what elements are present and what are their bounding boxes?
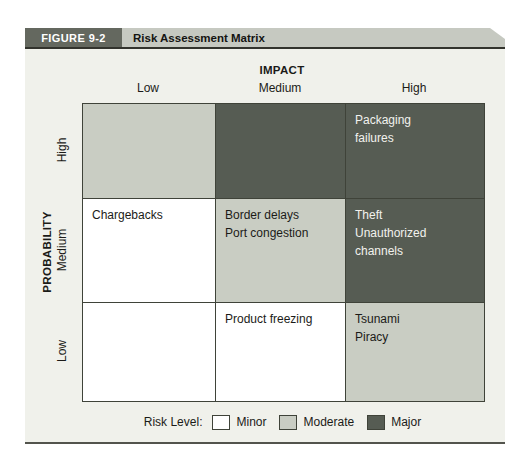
legend-entry-minor: Minor [212, 415, 266, 430]
legend-label-minor: Minor [236, 415, 266, 429]
moderate-swatch-icon [279, 415, 297, 430]
matrix-cell: Tsunami Piracy [346, 303, 484, 401]
risk-item: Port congestion [225, 224, 336, 242]
risk-item: Piracy [355, 328, 475, 346]
figure-title-bar: Risk Assessment Matrix [122, 28, 505, 47]
matrix-cell: Packaging failures [346, 104, 484, 199]
risk-item: Tsunami [355, 310, 475, 328]
probability-axis-title: PROBABILITY [41, 211, 53, 292]
matrix-cell [83, 303, 216, 401]
legend-entry-moderate: Moderate [279, 415, 354, 430]
probability-label-low: Low [55, 340, 69, 362]
risk-matrix: Packaging failures Chargebacks Border de… [82, 103, 485, 402]
risk-item: Border delays [225, 206, 336, 224]
legend-title: Risk Level: [144, 415, 203, 429]
minor-swatch-icon [212, 415, 230, 430]
legend-label-moderate: Moderate [303, 415, 354, 429]
major-swatch-icon [367, 415, 385, 430]
risk-level-legend: Risk Level: Minor Moderate Major [82, 413, 483, 431]
figure-title: Risk Assessment Matrix [122, 32, 265, 44]
matrix-cell: Border delays Port congestion [216, 199, 346, 303]
probability-label-medium: Medium [55, 229, 69, 272]
impact-label-medium: Medium [225, 81, 335, 95]
bottom-rule [25, 442, 505, 444]
matrix-cell: Theft Unauthorized channels [346, 199, 484, 303]
figure-number-label: FIGURE 9-2 [41, 32, 106, 44]
figure-number-box: FIGURE 9-2 [25, 28, 122, 47]
matrix-cell: Product freezing [216, 303, 346, 401]
figure-9-2: FIGURE 9-2 Risk Assessment Matrix IMPACT… [0, 0, 531, 474]
impact-axis-title: IMPACT [232, 64, 332, 76]
legend-label-major: Major [391, 415, 421, 429]
risk-item: Product freezing [225, 310, 336, 328]
risk-item: Packaging failures [355, 111, 475, 147]
risk-item: Chargebacks [92, 206, 206, 224]
matrix-cell: Chargebacks [83, 199, 216, 303]
impact-label-low: Low [93, 81, 203, 95]
matrix-cell [216, 104, 346, 199]
risk-item: Theft [355, 206, 475, 224]
legend-entry-major: Major [367, 415, 421, 430]
matrix-cell [83, 104, 216, 199]
probability-label-high: High [55, 138, 69, 163]
risk-item: Unauthorized channels [355, 224, 475, 260]
impact-label-high: High [359, 81, 469, 95]
